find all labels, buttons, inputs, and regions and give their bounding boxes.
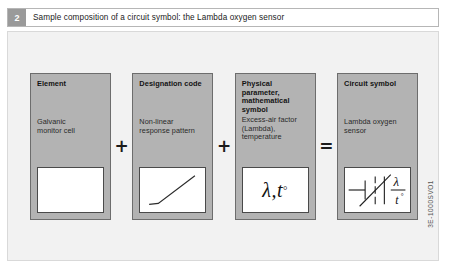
card-physical-parameter: Physical parameter, mathematical symbol …: [235, 73, 316, 220]
card-circuit-symbol-title: Circuit symbol: [344, 80, 411, 89]
composition-diagram: Element Galvanic monitor cell + Designat…: [30, 73, 418, 225]
nonlinear-curve-graph-figure: [139, 167, 206, 213]
card-circuit-symbol: Circuit symbol Lambda oxygen sensor: [337, 73, 418, 220]
card-element: Element Galvanic monitor cell: [30, 73, 111, 220]
card-element-title: Element: [37, 80, 104, 89]
lambda-t-math-symbol: λ,t°: [243, 168, 308, 212]
circuit-degree-label: °: [401, 191, 404, 200]
blank-box-figure: [37, 167, 104, 213]
figure-source-code: 3E-1000SVO1: [427, 180, 434, 228]
operator-plus-1: +: [111, 73, 132, 220]
card-designation-code: Designation code Non-linear response pat…: [132, 73, 213, 220]
nonlinear-curve-icon: [140, 168, 205, 212]
lambda-sensor-circuit-icon: λ t °: [345, 168, 410, 212]
card-designation-code-title: Designation code: [139, 80, 206, 89]
circuit-lambda-label: λ: [393, 174, 400, 189]
lambda-t-text: λ,t: [262, 179, 283, 202]
figure-number-badge: 2: [8, 9, 26, 26]
figure-caption-text: Sample composition of a circuit symbol: …: [26, 9, 438, 26]
card-element-subtitle: Galvanic monitor cell: [37, 118, 105, 135]
lambda-t-degree-symbol-figure: λ,t°: [242, 167, 309, 213]
card-physical-parameter-title: Physical parameter, mathematical symbol: [242, 80, 309, 114]
card-circuit-symbol-subtitle: Lambda oxygen sensor: [344, 118, 412, 135]
figure-caption-bar: 2 Sample composition of a circuit symbol…: [7, 8, 439, 27]
card-designation-code-subtitle: Non-linear response pattern: [139, 118, 207, 135]
lambda-sensor-circuit-symbol-figure: λ t °: [344, 167, 411, 213]
figure-page: 2 Sample composition of a circuit symbol…: [0, 0, 451, 271]
figure-panel: Element Galvanic monitor cell + Designat…: [7, 31, 439, 261]
circuit-t-label: t: [395, 193, 399, 207]
operator-equals: =: [316, 73, 337, 220]
degree-sign: °: [283, 184, 288, 196]
card-physical-parameter-subtitle: Excess-air factor (Lambda), temperature: [242, 116, 310, 142]
operator-plus-2: +: [213, 73, 234, 220]
